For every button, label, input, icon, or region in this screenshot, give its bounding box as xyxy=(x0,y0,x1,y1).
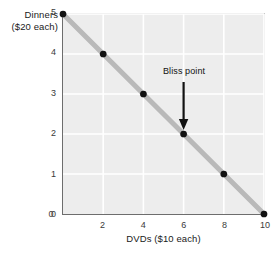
annotation-arrow-layer xyxy=(63,14,264,214)
plot-area xyxy=(62,13,265,215)
x-tick-label: 0 xyxy=(40,209,62,219)
y-tick-label: 5 xyxy=(34,7,56,17)
x-tick-label: 8 xyxy=(213,220,235,230)
x-tick-label: 2 xyxy=(92,220,114,230)
x-tick-label: 10 xyxy=(254,220,276,230)
y-axis-title-line-2: ($20 each) xyxy=(0,21,58,33)
x-tick-label: 6 xyxy=(173,220,195,230)
x-axis-title: DVDs ($10 each) xyxy=(62,233,265,244)
bliss-point-label: Bliss point xyxy=(163,66,205,76)
y-tick-label: 2 xyxy=(34,128,56,138)
x-tick-label: 4 xyxy=(132,220,154,230)
y-tick-label: 1 xyxy=(34,169,56,179)
y-tick-label: 3 xyxy=(34,88,56,98)
chart-figure: Dinners ($20 each) 012345 0246810 Bliss … xyxy=(0,0,276,253)
y-tick-label: 4 xyxy=(34,47,56,57)
